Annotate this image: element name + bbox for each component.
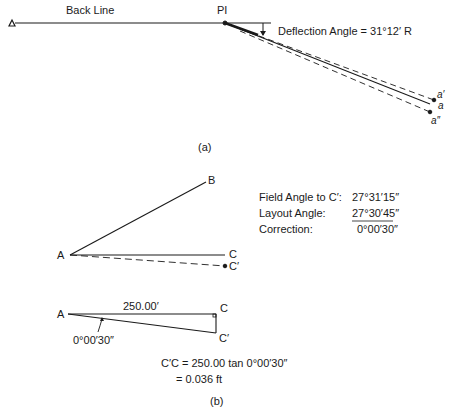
triangle-point-c-label: C bbox=[220, 303, 228, 314]
table-label-field-angle: Field Angle to C′: bbox=[259, 192, 342, 203]
back-line-label: Back Line bbox=[66, 5, 114, 16]
point-a-double-prime bbox=[428, 110, 432, 114]
caption-b: (b) bbox=[210, 396, 223, 407]
triangle-point-a-label: A bbox=[57, 309, 64, 320]
distance-label: 250.00′ bbox=[123, 301, 159, 312]
line-a-c-prime bbox=[68, 314, 216, 333]
diagram-canvas bbox=[0, 0, 450, 412]
angle-label: 0°00′30″ bbox=[73, 335, 114, 346]
dashed-line-a-c-prime bbox=[70, 255, 225, 266]
point-c-label: C bbox=[229, 249, 237, 260]
station-triangle-icon bbox=[9, 20, 15, 26]
point-c-prime bbox=[223, 264, 227, 268]
deflection-angle-label: Deflection Angle = 31°12′ R bbox=[278, 26, 412, 37]
arrowhead-icon bbox=[260, 31, 266, 36]
point-b-label: B bbox=[208, 175, 215, 186]
table-value-layout-angle: 27°30′45″ bbox=[352, 208, 399, 219]
triangle-point-c-prime-label: C′ bbox=[219, 333, 229, 344]
formula-line-1: C′C = 250.00 tan 0°00′30″ bbox=[161, 358, 287, 369]
point-a-label: a bbox=[438, 101, 444, 111]
dashed-line-to-a-double-prime bbox=[240, 31, 430, 112]
caption-a: (a) bbox=[198, 142, 211, 153]
pi-label: PI bbox=[217, 5, 227, 16]
table-label-layout-angle: Layout Angle: bbox=[259, 208, 326, 219]
formula-line-2: = 0.036 ft bbox=[176, 374, 222, 385]
line-a-b bbox=[70, 182, 206, 255]
point-a-double-prime-label: a″ bbox=[431, 116, 440, 126]
dashed-line-to-a-prime bbox=[240, 29, 434, 100]
point-c-prime-label: C′ bbox=[229, 261, 239, 272]
point-a-prime bbox=[432, 98, 436, 102]
table-value-correction: 0°00′30″ bbox=[357, 224, 398, 235]
figure-b-triangle bbox=[68, 314, 216, 333]
point-a-prime-label: a′ bbox=[437, 90, 444, 100]
table-value-field-angle: 27°31′15″ bbox=[352, 192, 399, 203]
point-a-label: A bbox=[57, 250, 64, 261]
table-label-correction: Correction: bbox=[259, 224, 313, 235]
